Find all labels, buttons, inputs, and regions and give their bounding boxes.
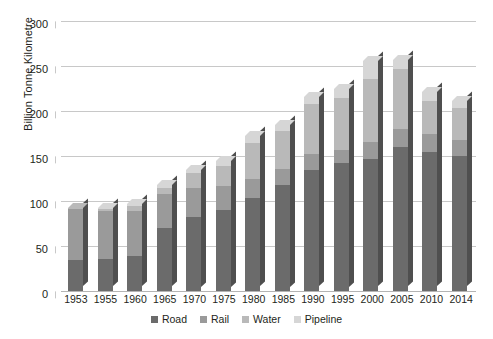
bar-segment-pipeline <box>245 136 260 143</box>
x-tick-label: 2014 <box>446 293 476 305</box>
bar-side-face <box>319 87 324 286</box>
bar-segment-pipeline <box>452 101 467 108</box>
bar-segment-rail <box>422 134 437 151</box>
legend-swatch-icon <box>294 316 301 323</box>
bar-side-face <box>290 115 295 286</box>
bar-side-face <box>437 83 442 286</box>
bar-side-face <box>349 79 354 286</box>
gridline-0 <box>61 291 476 292</box>
stacked-bar-chart: Billion Tonne Kilometre 0501001502002503… <box>0 0 493 339</box>
bar-segment-road <box>186 217 201 291</box>
bar-side-face <box>378 51 383 286</box>
bar-segment-road <box>393 147 408 291</box>
legend-item-road[interactable]: Road <box>151 313 187 325</box>
bar-segment-water <box>334 98 349 149</box>
bar-segment-road <box>363 159 378 291</box>
bar-segment-road <box>334 163 349 291</box>
x-tick-label: 1985 <box>268 293 298 305</box>
bar-segment-pipeline <box>393 60 408 69</box>
bar-1985[interactable] <box>275 125 290 291</box>
bar-slot <box>179 14 209 291</box>
bar-segment-rail <box>68 209 83 259</box>
bar-slot <box>297 14 327 291</box>
bar-segment-road <box>127 256 142 291</box>
bar-slot <box>445 14 475 291</box>
bar-1970[interactable] <box>186 170 201 291</box>
x-tick-label: 1990 <box>298 293 328 305</box>
bar-segment-water <box>393 69 408 129</box>
y-tick-label: 150 <box>8 153 48 165</box>
bar-segment-water <box>68 208 83 209</box>
bar-segment-road <box>452 156 467 291</box>
y-tick-label: 300 <box>8 18 48 30</box>
legend-label: Water <box>253 313 281 325</box>
bar-segment-road <box>68 260 83 292</box>
legend-item-rail[interactable]: Rail <box>200 313 229 325</box>
bar-segment-water <box>216 166 231 186</box>
legend-item-water[interactable]: Water <box>242 313 281 325</box>
bar-1960[interactable] <box>127 204 142 291</box>
bar-segment-road <box>245 198 260 291</box>
legend-label: Pipeline <box>305 313 342 325</box>
legend-item-pipeline[interactable]: Pipeline <box>294 313 342 325</box>
bar-segment-water <box>452 108 467 140</box>
bar-1965[interactable] <box>157 185 172 291</box>
legend-swatch-icon <box>151 316 158 323</box>
bar-segment-road <box>422 152 437 292</box>
bar-segment-pipeline <box>216 161 231 166</box>
bar-segment-road <box>304 170 319 292</box>
bar-segment-water <box>275 131 290 169</box>
bar-segment-pipeline <box>422 92 437 101</box>
chart-legend: RoadRailWaterPipeline <box>0 313 493 325</box>
bar-side-face <box>83 199 88 286</box>
x-tick-label: 1980 <box>239 293 269 305</box>
x-tick-label: 1955 <box>91 293 121 305</box>
bar-segment-rail <box>127 211 142 256</box>
bar-segment-road <box>98 259 113 291</box>
bar-segment-pipeline <box>334 89 349 99</box>
bar-slot <box>238 14 268 291</box>
y-tick-label: 50 <box>8 243 48 255</box>
bar-segment-rail <box>245 179 260 199</box>
bar-slot <box>91 14 121 291</box>
y-tick-label: 100 <box>8 198 48 210</box>
y-tick-label: 200 <box>8 108 48 120</box>
x-tick-label: 1975 <box>209 293 239 305</box>
y-tick-label: 250 <box>8 63 48 75</box>
bar-side-face <box>201 160 206 286</box>
bar-group <box>61 14 474 291</box>
bar-segment-water <box>245 143 260 178</box>
legend-swatch-icon <box>200 316 207 323</box>
bar-segment-rail <box>186 188 201 218</box>
bar-segment-water <box>186 173 201 187</box>
bar-1953[interactable] <box>68 208 83 291</box>
bar-segment-water <box>157 188 172 194</box>
bar-1990[interactable] <box>304 97 319 291</box>
x-tick-label: 1970 <box>180 293 210 305</box>
bar-1955[interactable] <box>98 208 113 291</box>
bar-2014[interactable] <box>452 101 467 291</box>
bar-segment-water <box>304 104 319 154</box>
x-axis-tick-labels: 1953195519601965197019751980198519901995… <box>61 293 476 305</box>
bar-slot <box>120 14 150 291</box>
bar-segment-rail <box>157 194 172 228</box>
bar-slot <box>61 14 91 291</box>
bar-1995[interactable] <box>334 89 349 291</box>
bar-slot <box>356 14 386 291</box>
bar-segment-rail <box>275 169 290 185</box>
bar-segment-pipeline <box>127 204 142 207</box>
y-axis-tick-labels: 050100150200250300 <box>0 14 48 291</box>
x-tick-label: 2005 <box>387 293 417 305</box>
bar-2005[interactable] <box>393 60 408 291</box>
bar-segment-road <box>157 228 172 291</box>
bar-2000[interactable] <box>363 61 378 291</box>
bar-side-face <box>113 199 118 286</box>
bar-segment-water <box>127 206 142 211</box>
bar-segment-rail <box>452 140 467 156</box>
bar-1975[interactable] <box>216 161 231 291</box>
bar-segment-rail <box>393 129 408 147</box>
bar-segment-rail <box>216 186 231 210</box>
bar-2010[interactable] <box>422 92 437 291</box>
bar-side-face <box>142 194 147 286</box>
bar-1980[interactable] <box>245 136 260 291</box>
